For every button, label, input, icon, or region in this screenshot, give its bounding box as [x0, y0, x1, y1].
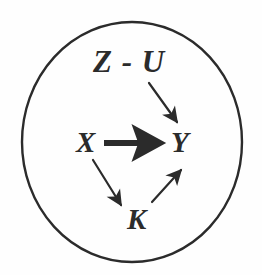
node-label-zu: Z - U: [93, 46, 165, 77]
node-label-k: K: [127, 205, 146, 234]
edge-k-to-y-arrow: [152, 170, 181, 202]
node-label-y: Y: [171, 128, 189, 157]
edge-x-to-k-arrow: [93, 160, 121, 205]
edge-zu-to-y-arrow: [149, 83, 177, 122]
node-label-x: X: [76, 128, 95, 157]
causal-diagram-figure: Z - U X Y K: [0, 0, 262, 275]
